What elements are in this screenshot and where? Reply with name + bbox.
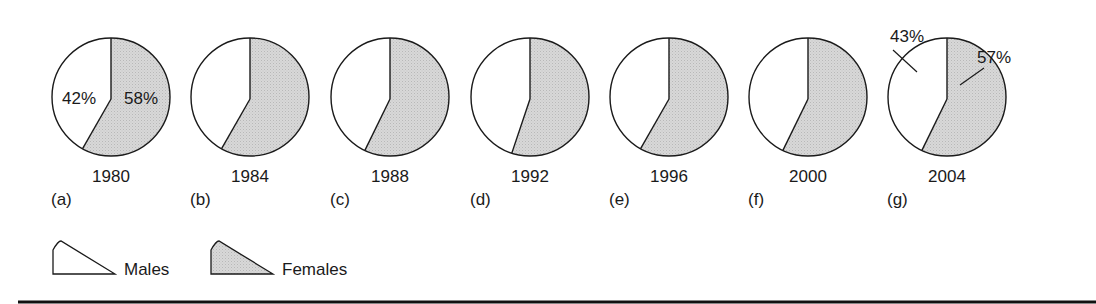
year-label: 1980	[92, 167, 130, 186]
legend-item-males: Males	[53, 241, 169, 279]
legend: Males Females	[53, 241, 347, 279]
pie-1984: 1984(b)	[190, 38, 309, 209]
legend-item-females: Females	[211, 241, 347, 279]
legend-label-males: Males	[124, 260, 169, 279]
pie-chart-figure: 42%58%1980(a)1984(b)1988(c)1992(d)1996(e…	[0, 0, 1096, 304]
year-label: 2000	[789, 167, 827, 186]
pie-1992: 1992(d)	[470, 38, 589, 209]
legend-label-females: Females	[282, 260, 347, 279]
panel-label: (c)	[330, 190, 350, 209]
year-label: 1988	[371, 167, 409, 186]
male-percent-label: 42%	[62, 89, 96, 108]
pie-2000: 2000(f)	[748, 38, 867, 209]
females-swatch-icon	[211, 241, 273, 274]
pie-1996: 1996(e)	[609, 38, 728, 209]
panel-label: (e)	[609, 190, 630, 209]
panel-label: (f)	[748, 190, 764, 209]
year-label: 1996	[650, 167, 688, 186]
year-label: 1984	[231, 167, 269, 186]
pie-2004: 43%57%2004(g)	[887, 27, 1011, 209]
panel-label: (b)	[190, 190, 211, 209]
male-percent-label: 43%	[890, 27, 924, 46]
female-percent-label: 57%	[977, 48, 1011, 67]
year-label: 1992	[511, 167, 549, 186]
panel-label: (g)	[887, 190, 908, 209]
panel-label: (a)	[51, 190, 72, 209]
pie-1980: 42%58%1980(a)	[51, 38, 170, 209]
males-swatch-icon	[53, 241, 115, 274]
year-label: 2004	[928, 167, 966, 186]
female-percent-label: 58%	[124, 89, 158, 108]
pie-1988: 1988(c)	[330, 38, 449, 209]
panel-label: (d)	[470, 190, 491, 209]
